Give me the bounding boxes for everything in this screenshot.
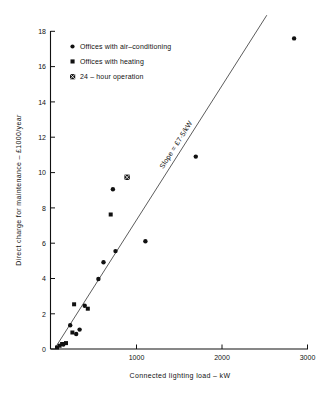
data-point (64, 341, 68, 345)
data-point (86, 307, 90, 311)
y-tick-label: 0 (42, 346, 46, 353)
scatter-plot: 18 16 14 12 10 8 6 4 2 0 1000 2000 3000 … (0, 0, 335, 393)
y-tick-label: 8 (42, 205, 46, 212)
legend-item-label: Offices with air–conditioning (80, 43, 171, 51)
y-tick-label: 2 (42, 311, 46, 318)
chart-figure: 18 16 14 12 10 8 6 4 2 0 1000 2000 3000 … (0, 0, 335, 393)
data-point (77, 327, 81, 331)
y-axis-tick-labels: 18 16 14 12 10 8 6 4 2 0 (38, 28, 46, 353)
x-tick-label: 1000 (129, 354, 145, 361)
legend-marker-square-icon (71, 59, 75, 63)
data-point (194, 154, 198, 158)
y-tick-label: 10 (38, 169, 46, 176)
data-point (70, 331, 74, 335)
data-point (72, 302, 76, 306)
data-point (292, 36, 296, 40)
x-axis-ticks (137, 345, 308, 350)
data-point (101, 260, 105, 264)
legend-marker-crossed-square-icon (70, 74, 75, 79)
y-tick-label: 4 (42, 275, 46, 282)
data-point (60, 342, 64, 346)
data-point (124, 175, 129, 180)
slope-annotation: Slope = £7·5/kW (158, 119, 194, 170)
data-point (113, 249, 117, 253)
data-point (111, 187, 115, 191)
x-axis-tick-labels: 1000 2000 3000 (129, 354, 316, 361)
y-tick-label: 18 (38, 28, 46, 35)
data-point (74, 332, 78, 336)
legend-item-label: 24 – hour operation (80, 73, 144, 81)
series-heating (55, 213, 113, 350)
y-tick-label: 6 (42, 240, 46, 247)
data-point (68, 323, 72, 327)
y-axis-ticks (51, 31, 56, 349)
y-tick-label: 16 (38, 63, 46, 70)
y-tick-label: 12 (38, 134, 46, 141)
legend-marker-circle-icon (70, 44, 74, 48)
legend-item-label: Offices with heating (80, 58, 144, 66)
x-tick-label: 2000 (214, 354, 230, 361)
y-axis-title: Direct charge for maintenance – £1000/ye… (15, 114, 23, 266)
legend: Offices with air–conditioning Offices wi… (70, 43, 171, 81)
data-point (143, 239, 147, 243)
series-air-conditioning (61, 36, 296, 347)
data-point (109, 213, 113, 217)
data-point (96, 277, 100, 281)
x-tick-label: 3000 (300, 354, 316, 361)
series-24-hour-operation (124, 175, 129, 180)
y-tick-label: 14 (38, 99, 46, 106)
x-axis-title: Connected lighting load – kW (130, 372, 231, 380)
